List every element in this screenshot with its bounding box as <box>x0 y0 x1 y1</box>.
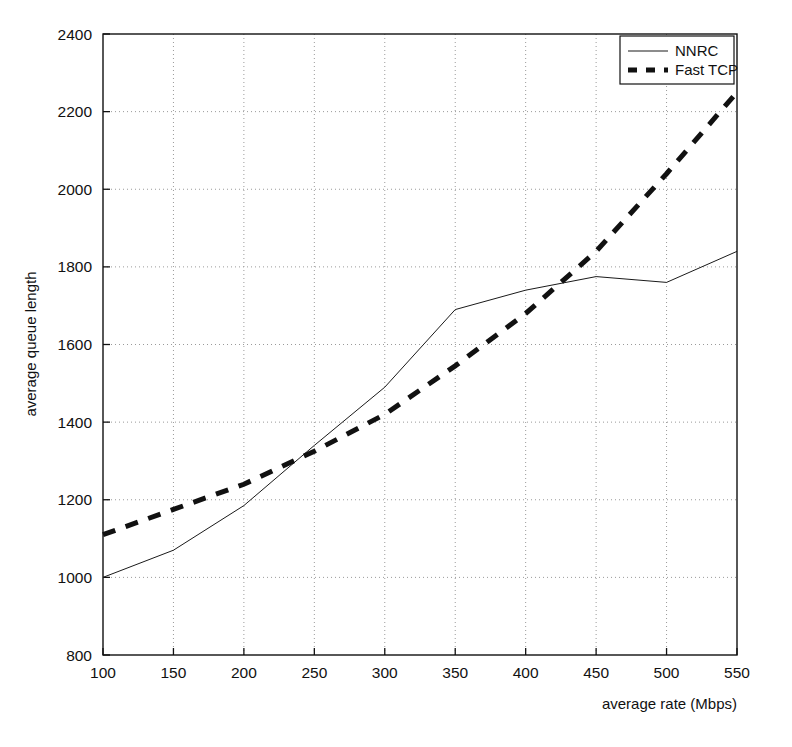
x-tick-label: 500 <box>654 664 680 681</box>
y-tick-label: 1000 <box>58 569 93 586</box>
x-tick-label: 100 <box>90 664 116 681</box>
y-tick-label: 2000 <box>58 181 93 198</box>
x-axis-label: average rate (Mbps) <box>602 695 737 712</box>
legend: NNRC Fast TCP <box>620 36 738 84</box>
x-tick-label: 550 <box>724 664 750 681</box>
y-tick-label: 800 <box>66 647 92 664</box>
x-tick-label: 200 <box>231 664 257 681</box>
chart-figure: 100150200250300350400450500550 800100012… <box>0 0 792 747</box>
y-tick-label: 1800 <box>58 258 93 275</box>
x-tick-label: 400 <box>513 664 539 681</box>
line-chart: 100150200250300350400450500550 800100012… <box>0 0 792 747</box>
x-tick-label: 350 <box>442 664 468 681</box>
legend-label-fast-tcp: Fast TCP <box>675 61 738 78</box>
y-tick-label: 1600 <box>58 336 93 353</box>
x-tick-label: 300 <box>372 664 398 681</box>
y-tick-label: 2400 <box>58 26 93 43</box>
x-tick-label: 150 <box>161 664 187 681</box>
x-tick-label: 250 <box>301 664 327 681</box>
legend-label-nnrc: NNRC <box>675 42 718 59</box>
y-axis-label: average queue length <box>22 271 39 416</box>
y-tick-label: 2200 <box>58 103 93 120</box>
x-tick-label: 450 <box>583 664 609 681</box>
y-tick-label: 1200 <box>58 491 93 508</box>
y-tick-label: 1400 <box>58 414 93 431</box>
